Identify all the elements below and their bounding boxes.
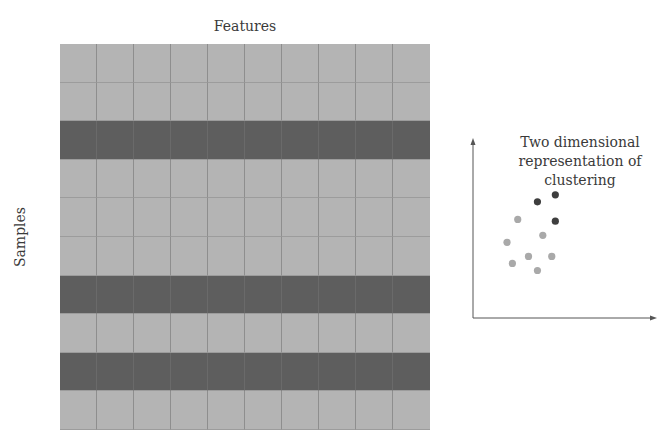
matrix-cell: [319, 160, 356, 199]
sample-row-dark: [60, 353, 430, 392]
matrix-cell: [245, 237, 282, 276]
matrix-cell: [60, 353, 97, 392]
matrix-cell: [97, 276, 134, 315]
sample-row-light: [60, 198, 430, 237]
matrix-cell: [356, 314, 393, 353]
matrix-cell: [393, 276, 430, 315]
matrix-cell: [282, 276, 319, 315]
matrix-cell: [134, 391, 171, 430]
matrix-cell: [60, 276, 97, 315]
matrix-cell: [356, 121, 393, 160]
scatter-point-light: [525, 253, 532, 260]
scatter-point-light: [548, 253, 555, 260]
matrix-cell: [282, 44, 319, 83]
matrix-cell: [356, 237, 393, 276]
matrix-cell: [393, 314, 430, 353]
sample-row-dark: [60, 276, 430, 315]
matrix-cell: [208, 198, 245, 237]
matrix-cell: [245, 83, 282, 122]
matrix-cell: [171, 44, 208, 83]
features-axis-label: Features: [60, 18, 430, 34]
scatter-point-dark: [534, 198, 541, 205]
matrix-cell: [393, 391, 430, 430]
matrix-cell: [319, 237, 356, 276]
matrix-cell: [134, 198, 171, 237]
matrix-cell: [208, 160, 245, 199]
matrix-cell: [245, 198, 282, 237]
matrix-cell: [245, 353, 282, 392]
matrix-cell: [319, 121, 356, 160]
matrix-cell: [208, 237, 245, 276]
cluster-scatter-plot: [460, 130, 672, 330]
scatter-point-light: [534, 267, 541, 274]
matrix-cell: [134, 276, 171, 315]
matrix-cell: [319, 83, 356, 122]
matrix-cell: [393, 83, 430, 122]
matrix-cell: [319, 276, 356, 315]
matrix-cell: [393, 237, 430, 276]
matrix-cell: [97, 198, 134, 237]
matrix-cell: [208, 83, 245, 122]
matrix-cell: [356, 353, 393, 392]
sample-row-light: [60, 44, 430, 83]
scatter-point-light: [509, 260, 516, 267]
matrix-cell: [208, 44, 245, 83]
sample-row-light: [60, 391, 430, 430]
matrix-cell: [134, 160, 171, 199]
matrix-cell: [60, 198, 97, 237]
matrix-cell: [60, 391, 97, 430]
matrix-cell: [245, 160, 282, 199]
matrix-cell: [356, 276, 393, 315]
matrix-cell: [208, 121, 245, 160]
sample-row-light: [60, 237, 430, 276]
matrix-cell: [97, 83, 134, 122]
matrix-cell: [282, 237, 319, 276]
matrix-cell: [171, 353, 208, 392]
matrix-cell: [393, 198, 430, 237]
matrix-cell: [134, 83, 171, 122]
matrix-cell: [319, 391, 356, 430]
matrix-cell: [134, 44, 171, 83]
matrix-cell: [319, 44, 356, 83]
matrix-cell: [356, 160, 393, 199]
matrix-cell: [393, 44, 430, 83]
matrix-cell: [60, 237, 97, 276]
matrix-cell: [97, 314, 134, 353]
matrix-cell: [282, 121, 319, 160]
matrix-cell: [60, 121, 97, 160]
matrix-cell: [208, 314, 245, 353]
sample-row-light: [60, 83, 430, 122]
matrix-cell: [97, 121, 134, 160]
feature-matrix: [60, 44, 430, 430]
scatter-point-light: [514, 216, 521, 223]
matrix-cell: [171, 276, 208, 315]
matrix-cell: [393, 121, 430, 160]
matrix-cell: [60, 44, 97, 83]
matrix-cell: [97, 160, 134, 199]
matrix-cell: [134, 121, 171, 160]
matrix-cell: [134, 314, 171, 353]
matrix-cell: [171, 121, 208, 160]
matrix-cell: [282, 314, 319, 353]
matrix-cell: [60, 83, 97, 122]
matrix-cell: [356, 391, 393, 430]
matrix-cell: [97, 353, 134, 392]
matrix-cell: [393, 353, 430, 392]
matrix-cell: [97, 44, 134, 83]
matrix-cell: [60, 160, 97, 199]
matrix-cell: [319, 314, 356, 353]
sample-row-dark: [60, 121, 430, 160]
matrix-cell: [356, 44, 393, 83]
matrix-cell: [319, 198, 356, 237]
matrix-cell: [282, 198, 319, 237]
x-axis-arrow-icon: [650, 316, 657, 321]
matrix-cell: [356, 198, 393, 237]
matrix-cell: [60, 314, 97, 353]
matrix-cell: [171, 83, 208, 122]
matrix-cell: [171, 198, 208, 237]
sample-row-light: [60, 160, 430, 199]
matrix-cell: [134, 237, 171, 276]
matrix-cell: [134, 353, 171, 392]
matrix-cell: [245, 391, 282, 430]
matrix-cell: [282, 353, 319, 392]
